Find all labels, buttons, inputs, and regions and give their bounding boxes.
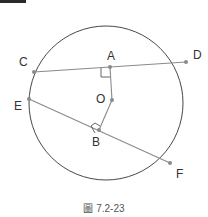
point-a [108,65,112,69]
right-angle-b [91,126,95,133]
point-b [97,128,101,132]
label-c: C [19,55,28,69]
label-b: B [92,135,100,149]
right-angle-a [101,68,110,77]
segment-oa [110,67,112,100]
point-o [110,98,114,102]
circle [29,26,183,180]
point-e [27,97,31,101]
label-a: A [107,49,115,63]
point-d [184,60,188,64]
geometry-figure: C D A O E B F [0,0,208,217]
point-c [32,70,36,74]
figure-caption: 圖 7.2-23 [0,200,208,215]
label-f: F [176,167,183,181]
label-e: E [14,99,22,113]
label-o: O [96,92,105,106]
right-angle-b-outer [91,123,100,126]
label-d: D [193,48,202,62]
point-f [168,161,172,165]
